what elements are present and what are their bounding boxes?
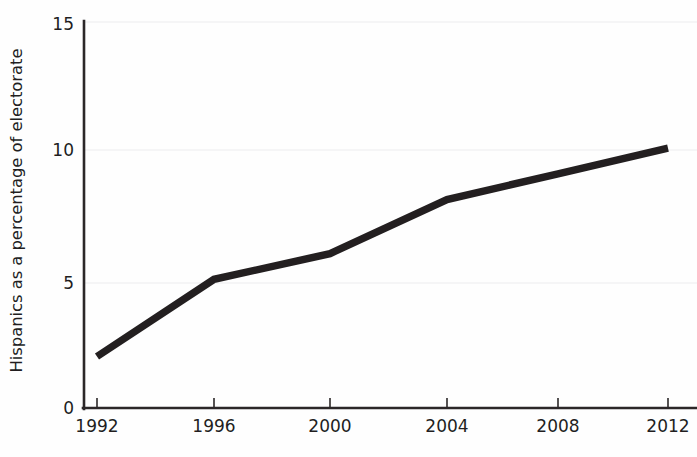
plot-area (0, 0, 697, 457)
x-axis-tick-marks (97, 398, 668, 408)
axis-lines (83, 21, 697, 409)
line-chart-figure: Hispanics as a percentage of electorate … (0, 0, 697, 457)
gridlines (84, 22, 697, 283)
data-series-hispanic-share-line (97, 148, 668, 356)
